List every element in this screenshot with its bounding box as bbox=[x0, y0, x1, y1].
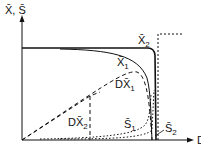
y-axis bbox=[20, 15, 25, 140]
label-x2: X̄2 bbox=[138, 34, 150, 49]
x-axis bbox=[22, 138, 194, 143]
label-s2: S̄2 bbox=[165, 122, 177, 137]
curve-dx2 bbox=[22, 92, 100, 140]
y-axis-label: X̄, S̄ bbox=[5, 4, 26, 16]
label-dx1: DX̄1 bbox=[115, 78, 135, 93]
label-s1: S̄1 bbox=[124, 118, 136, 133]
curve-s2 bbox=[60, 90, 154, 139]
x-axis-label: D bbox=[197, 134, 201, 146]
label-dx2: DX̄2 bbox=[68, 116, 88, 131]
washout-diagram: X̄, S̄ D X̄2 X̄1 DX̄1 DX̄2 S̄1 S̄2 bbox=[0, 0, 201, 158]
